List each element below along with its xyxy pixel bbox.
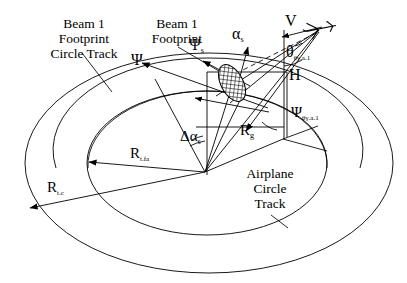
label-alpha-s: αs xyxy=(232,25,244,43)
radius-tfa-line xyxy=(89,162,205,172)
label-line: Track xyxy=(228,196,312,211)
velocity-symbol: V xyxy=(285,12,297,29)
psi-symbol: Ψ xyxy=(131,51,143,68)
psi-theta-angle-arc xyxy=(262,122,277,130)
rg-subscript: g xyxy=(250,131,254,140)
leader-airplane-circle-track xyxy=(271,215,288,228)
r-symbol: R xyxy=(130,145,140,161)
tangent-construction-line-2 xyxy=(283,126,318,139)
psi-s-subscript: s xyxy=(201,46,204,55)
r-tc-subscript: t.c xyxy=(57,189,64,197)
label-r-tfa: Rt.fa xyxy=(130,145,149,162)
label-altitude-h: H xyxy=(289,66,301,84)
label-line: Circle Track xyxy=(25,46,143,61)
label-psi-s: Ψs xyxy=(189,36,204,54)
figure-container: Beam 1 Footprint Circle Track Beam 1 Foo… xyxy=(0,0,407,283)
label-psi-theta: Ψθγ.a.1 xyxy=(291,104,319,121)
r-symbol: R xyxy=(47,179,57,195)
theta-subscript: θγ.a.1 xyxy=(294,54,311,62)
psi-symbol: Ψ xyxy=(189,36,201,53)
label-rg: Rg xyxy=(240,122,254,139)
delta-alpha-s-subscript: s xyxy=(198,137,201,146)
beam-footprint-hatched-ellipse-icon xyxy=(213,60,251,106)
label-line: Footprint xyxy=(126,31,228,46)
theta-symbol: θ xyxy=(286,43,294,60)
center-to-footprint-line xyxy=(205,86,232,172)
alpha-s-subscript: s xyxy=(240,35,243,44)
label-r-tc: Rt.c xyxy=(47,179,64,196)
label-theta-incidence: θθγ.a.1 xyxy=(286,43,310,61)
r-tfa-subscript: t.fa xyxy=(140,155,149,163)
psi-symbol: Ψ xyxy=(291,104,302,120)
delta-alpha-symbol: Δα xyxy=(180,128,198,144)
label-beam1-footprint: Beam 1 Footprint xyxy=(126,16,228,46)
airplane-track-upper-arc xyxy=(88,91,327,168)
label-line: Beam 1 xyxy=(126,16,228,31)
label-psi: Ψ xyxy=(131,51,143,69)
psi-inner-arrow xyxy=(195,98,269,112)
label-airplane-circle-track: Airplane Circle Track xyxy=(228,166,312,211)
altitude-symbol: H xyxy=(289,66,301,83)
r-symbol: R xyxy=(240,122,250,138)
label-velocity: V xyxy=(285,12,297,30)
label-line: Airplane xyxy=(228,166,312,181)
psi-theta-subscript: θγ.a.1 xyxy=(302,114,319,122)
label-delta-alpha-s: Δαs xyxy=(180,128,201,145)
label-line: Circle xyxy=(228,181,312,196)
